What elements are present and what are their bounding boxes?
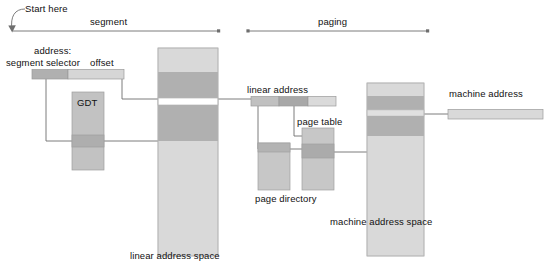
linear-address-space-label: linear address space bbox=[130, 250, 220, 261]
page-table-box bbox=[302, 128, 334, 190]
address-translation-diagram: Start here segment paging address: segme… bbox=[0, 0, 555, 278]
linear-address-label: linear address bbox=[247, 84, 308, 95]
page-table-label: page table bbox=[297, 116, 342, 127]
start-here-label: Start here bbox=[25, 3, 68, 14]
connector-linear-field1-to-page-directory bbox=[258, 106, 272, 149]
phase-label-segment: segment bbox=[90, 16, 127, 27]
segment-selector-label: segment selector bbox=[6, 57, 80, 68]
machine-address-space-label: machine address space bbox=[330, 216, 432, 227]
phase-rule-paging bbox=[246, 29, 429, 32]
page-directory-label: page directory bbox=[255, 193, 317, 204]
offset-label: offset bbox=[90, 57, 114, 68]
linear-address-bar bbox=[251, 97, 336, 107]
machine-address-space-column bbox=[367, 83, 424, 256]
machine-address-bar bbox=[448, 110, 543, 120]
address-bar bbox=[32, 70, 124, 80]
linear-address-space-column bbox=[158, 48, 218, 256]
start-here-arrow-icon bbox=[8, 9, 25, 33]
page-directory-box bbox=[258, 143, 290, 190]
diagram-canvas bbox=[0, 0, 555, 278]
phase-label-paging: paging bbox=[318, 16, 347, 27]
phase-rule-segment bbox=[13, 29, 220, 32]
gdt-label: GDT bbox=[77, 97, 97, 108]
address-label: address: bbox=[34, 45, 71, 56]
machine-address-label: machine address bbox=[449, 88, 523, 99]
connector-selector-to-gdt bbox=[46, 79, 72, 141]
connector-offset-to-linear-space bbox=[122, 79, 158, 99]
